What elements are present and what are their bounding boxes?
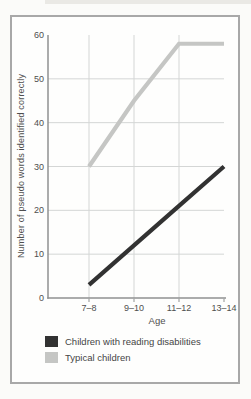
legend-label-reading-disabilities: Children with reading disabilities (65, 336, 201, 347)
legend-swatch-typical-children-icon (45, 352, 58, 363)
x-tick-label: 9–10 (124, 303, 144, 313)
legend: Children with reading disabilities Typic… (45, 336, 201, 363)
legend-swatch-reading-disabilities-icon (45, 336, 58, 347)
x-tick-label: 11–12 (167, 303, 191, 313)
series-line-0 (89, 167, 224, 285)
y-tick-label: 30 (34, 162, 44, 172)
x-axis-label: Age (149, 315, 166, 326)
y-tick-label: 10 (34, 249, 44, 259)
y-tick-label: 40 (34, 118, 44, 128)
y-tick-label: 60 (34, 30, 44, 40)
y-tick-label: 20 (34, 205, 44, 215)
y-tick-label: 0 (39, 293, 44, 303)
legend-item-reading-disabilities: Children with reading disabilities (45, 336, 201, 347)
series-line-1 (89, 44, 224, 167)
y-tick-label: 50 (34, 74, 44, 84)
x-tick-label: 13–14 (211, 303, 236, 313)
y-axis-label: Number of pseudo words identified correc… (16, 74, 26, 258)
legend-label-typical-children: Typical children (65, 352, 130, 363)
x-tick-label: 7–8 (81, 303, 96, 313)
legend-item-typical-children: Typical children (45, 352, 201, 363)
